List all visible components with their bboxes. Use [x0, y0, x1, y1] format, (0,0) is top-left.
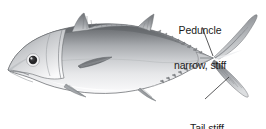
head-shape	[8, 29, 66, 79]
annotation-peduncle-line1: Peduncle	[170, 25, 230, 37]
annotation-tail: Tail stiff	[190, 100, 250, 129]
eye-pupil	[29, 56, 37, 64]
annotation-peduncle: Peduncle narrow, stiff	[170, 2, 230, 94]
annotation-tail-line1: Tail stiff	[190, 123, 250, 129]
eye-highlight	[30, 57, 32, 59]
annotation-peduncle-line2: narrow, stiff	[170, 60, 230, 72]
anal-fin-rays	[140, 89, 154, 100]
anal-fin	[138, 88, 156, 101]
fish-anatomy-figure: Peduncle narrow, stiff Tail stiff	[0, 0, 266, 129]
head-group	[8, 29, 66, 82]
